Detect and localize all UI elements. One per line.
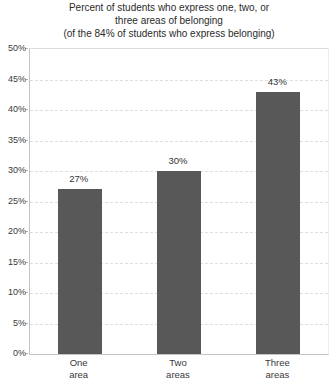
bar [256, 92, 300, 354]
x-category-label-line: area [44, 369, 114, 380]
y-tick-label: 20% [0, 226, 26, 236]
y-tick-label: 30% [0, 165, 26, 175]
y-tick-label: 45% [0, 74, 26, 84]
bar-chart: Percent of students who express one, two… [0, 0, 331, 380]
x-category-label-line: One [44, 357, 114, 369]
x-category-label: Twoareas [143, 357, 213, 380]
y-tick-label: 5% [0, 318, 26, 328]
bar-value-label: 30% [148, 155, 208, 166]
y-tick-label: 25% [0, 196, 26, 206]
chart-title-line-1: Percent of students who express one, two… [14, 1, 324, 14]
x-category-label-line: Three [242, 357, 312, 369]
bar [58, 189, 102, 354]
y-tick-label: 35% [0, 135, 26, 145]
x-category-label-line: areas [242, 369, 312, 380]
bar-value-label: 43% [247, 76, 307, 87]
x-category-label-line: areas [143, 369, 213, 380]
chart-title-line-2: three areas of belonging [14, 14, 324, 27]
bar [157, 171, 201, 354]
y-tick-label: 40% [0, 104, 26, 114]
x-category-label-line: Two [143, 357, 213, 369]
y-tick-label: 50% [0, 43, 26, 53]
plot-area [29, 48, 329, 355]
y-tick-label: 10% [0, 287, 26, 297]
y-tick-label: 15% [0, 257, 26, 267]
chart-title-line-3: (of the 84% of students who express belo… [14, 27, 324, 40]
chart-title: Percent of students who express one, two… [14, 1, 324, 40]
bar-value-label: 27% [49, 173, 109, 184]
y-tick-label: 0% [0, 348, 26, 358]
x-category-label: Onearea [44, 357, 114, 380]
x-category-label: Threeareas [242, 357, 312, 380]
